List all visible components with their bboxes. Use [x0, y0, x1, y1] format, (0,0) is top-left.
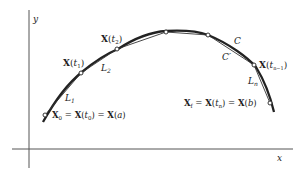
point-x0-label: X0 = X(t0) = X(a) [52, 110, 126, 121]
curve-c-label: C [234, 36, 241, 46]
point-x-t1-label: X(t1) [63, 58, 84, 69]
point-xf-label: Xf = X(tn) = X(b) [184, 98, 257, 109]
curve-approximation-diagram: y x C C′ L1 L2 Ln X(t1) X(t2) X(tn−1) X0… [0, 0, 302, 174]
point-x0 [43, 113, 47, 117]
y-axis-label: y [32, 14, 39, 24]
point-x-t4 [206, 33, 210, 37]
segment-l1-label: L1 [64, 93, 75, 104]
segment-ln-label: Ln [247, 76, 258, 87]
point-x-tn-minus-1 [252, 63, 256, 67]
point-xf [268, 101, 272, 105]
x-axis-label: x [277, 153, 282, 163]
point-x-t1 [79, 71, 83, 75]
segment-l2-label: L2 [100, 63, 111, 74]
chord-c-prime-label: C′ [222, 52, 231, 62]
point-x-t3 [164, 30, 168, 34]
point-x-tn-minus-1-label: X(tn−1) [259, 60, 287, 71]
point-x-t2-label: X(t2) [101, 34, 122, 45]
point-x-t2 [115, 47, 119, 51]
